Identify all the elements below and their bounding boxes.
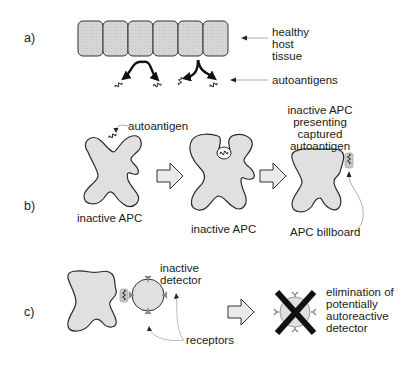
tissue-pointer-arrow [241, 36, 268, 41]
inactive-apc-1 [84, 136, 141, 207]
tissue-label-2: host [272, 38, 294, 51]
presented-antigen [120, 289, 128, 302]
apc-3-label-1: inactive APC [282, 104, 358, 117]
transition-arrow-1 [157, 163, 183, 189]
apc-billboard [345, 153, 353, 168]
receptor-pointer-2 [150, 330, 184, 341]
autoantigen-icons [114, 77, 217, 88]
elimination-label-1: elimination of [326, 286, 394, 299]
apc-3-label-2: presenting [282, 116, 358, 129]
panel-b-label: b) [24, 200, 35, 213]
immune-diagram: a) healthy host tissue autoantigens b) a… [0, 0, 406, 367]
inactive-apc-3 [292, 149, 344, 212]
apc-billboard-label: APC billboard [290, 226, 360, 239]
autoantigen-label: autoantigen [128, 120, 188, 133]
receptors-label: receptors [186, 334, 234, 347]
transition-arrow-3 [228, 299, 254, 325]
autoantigen-icon [108, 133, 116, 140]
host-tissue [78, 21, 228, 56]
apc-3-label-3: captured [282, 128, 358, 141]
antigen-pointer-arrow [230, 78, 268, 83]
autoantigens-label: autoantigens [272, 74, 338, 87]
panel-a-label: a) [24, 32, 35, 45]
receptor-pointer-1 [176, 296, 184, 340]
elimination-label-2: potentially [326, 298, 378, 311]
panel-c-label: c) [24, 306, 34, 319]
elimination-label-3: autoreactive [326, 310, 389, 323]
release-arrows [124, 60, 214, 79]
tissue-label-1: healthy [272, 26, 309, 39]
apc-presenting [68, 271, 117, 331]
billboard-pointer [349, 176, 363, 232]
elimination-label-4: detector [326, 322, 368, 335]
apc-3-label-4: autoantigen [282, 140, 358, 153]
transition-arrow-2 [260, 163, 286, 189]
detector-label-2: detector [160, 274, 202, 287]
detector-label-1: inactive [160, 262, 199, 275]
inactive-apc-2 [190, 134, 254, 210]
tissue-label-3: tissue [272, 50, 302, 63]
apc-1-label: inactive APC [77, 212, 142, 225]
apc-2-label: inactive APC [191, 223, 256, 236]
